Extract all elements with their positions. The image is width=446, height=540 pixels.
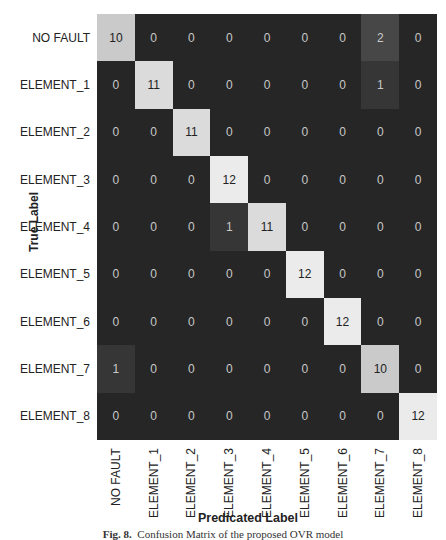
matrix-cell: 11 xyxy=(135,61,173,108)
matrix-cell: 0 xyxy=(135,156,173,203)
matrix-cell: 0 xyxy=(361,156,399,203)
y-axis-title: True Label xyxy=(27,192,41,252)
matrix-cell: 11 xyxy=(173,109,211,156)
matrix-cell: 0 xyxy=(173,345,211,392)
matrix-cell: 0 xyxy=(286,61,324,108)
matrix-cell: 0 xyxy=(97,251,135,298)
matrix-cell: 0 xyxy=(97,109,135,156)
matrix-cell: 0 xyxy=(399,14,437,61)
caption-text: Confusion Matrix of the proposed OVR mod… xyxy=(137,528,343,540)
matrix-cell: 0 xyxy=(399,298,437,345)
matrix-cell: 0 xyxy=(173,251,211,298)
x-tick-label: ELEMENT_6 xyxy=(336,448,350,518)
matrix-cell: 0 xyxy=(248,14,286,61)
matrix-cell: 0 xyxy=(286,109,324,156)
matrix-cell: 10 xyxy=(97,14,135,61)
x-tick-label: ELEMENT_1 xyxy=(147,448,161,518)
y-tick-label: ELEMENT_8 xyxy=(20,409,90,423)
matrix-cell: 0 xyxy=(135,298,173,345)
matrix-cell: 1 xyxy=(210,203,248,250)
matrix-cell: 0 xyxy=(97,156,135,203)
x-tick-label: ELEMENT_7 xyxy=(373,448,387,518)
y-tick-label: NO FAULT xyxy=(32,31,90,45)
matrix-cell: 0 xyxy=(361,109,399,156)
matrix-cell: 0 xyxy=(210,61,248,108)
matrix-cell: 12 xyxy=(210,156,248,203)
matrix-cell: 0 xyxy=(248,109,286,156)
matrix-cell: 11 xyxy=(248,203,286,250)
matrix-cell: 0 xyxy=(97,61,135,108)
matrix-cell: 0 xyxy=(324,345,362,392)
matrix-cell: 0 xyxy=(173,298,211,345)
x-tick-label: ELEMENT_5 xyxy=(298,448,312,518)
matrix-cell: 0 xyxy=(361,203,399,250)
matrix-cell: 0 xyxy=(135,345,173,392)
matrix-cell: 0 xyxy=(286,393,324,440)
figure-number: Fig. 8. xyxy=(103,528,132,540)
matrix-cell: 1 xyxy=(361,61,399,108)
matrix-cell: 0 xyxy=(286,156,324,203)
matrix-cell: 0 xyxy=(210,251,248,298)
matrix-cell: 0 xyxy=(248,345,286,392)
matrix-cell: 0 xyxy=(97,203,135,250)
matrix-cell: 12 xyxy=(286,251,324,298)
matrix-cell: 0 xyxy=(173,393,211,440)
y-tick-label: ELEMENT_3 xyxy=(20,173,90,187)
matrix-cell: 0 xyxy=(210,14,248,61)
matrix-cell: 0 xyxy=(248,61,286,108)
matrix-cell: 0 xyxy=(97,393,135,440)
matrix-cell: 0 xyxy=(248,156,286,203)
matrix-cell: 0 xyxy=(210,393,248,440)
x-tick-label: ELEMENT_4 xyxy=(260,448,274,518)
x-tick-label: ELEMENT_8 xyxy=(411,448,425,518)
matrix-cell: 0 xyxy=(286,14,324,61)
matrix-grid: 1000000020011000001000110000000001200000… xyxy=(97,14,437,440)
y-tick-label: ELEMENT_1 xyxy=(20,78,90,92)
matrix-cell: 0 xyxy=(210,298,248,345)
matrix-cell: 0 xyxy=(361,393,399,440)
matrix-cell: 0 xyxy=(361,251,399,298)
matrix-cell: 0 xyxy=(399,61,437,108)
matrix-cell: 0 xyxy=(324,156,362,203)
matrix-cell: 0 xyxy=(248,251,286,298)
x-tick-label: ELEMENT_3 xyxy=(222,448,236,518)
matrix-cell: 0 xyxy=(173,14,211,61)
matrix-cell: 0 xyxy=(399,251,437,298)
matrix-cell: 12 xyxy=(399,393,437,440)
matrix-cell: 0 xyxy=(324,203,362,250)
x-axis-title: Predicated Label xyxy=(0,511,446,525)
y-tick-label: ELEMENT_2 xyxy=(20,125,90,139)
matrix-cell: 0 xyxy=(173,203,211,250)
matrix-cell: 0 xyxy=(210,345,248,392)
y-tick-label: ELEMENT_7 xyxy=(20,362,90,376)
matrix-cell: 0 xyxy=(361,298,399,345)
matrix-cell: 0 xyxy=(173,156,211,203)
matrix-cell: 0 xyxy=(135,393,173,440)
matrix-cell: 0 xyxy=(286,203,324,250)
matrix-cell: 0 xyxy=(248,298,286,345)
matrix-cell: 0 xyxy=(399,203,437,250)
matrix-cell: 0 xyxy=(210,109,248,156)
matrix-cell: 0 xyxy=(173,61,211,108)
matrix-cell: 0 xyxy=(248,393,286,440)
matrix-cell: 0 xyxy=(399,345,437,392)
matrix-cell: 0 xyxy=(324,14,362,61)
matrix-cell: 12 xyxy=(324,298,362,345)
matrix-cell: 0 xyxy=(324,109,362,156)
matrix-cell: 0 xyxy=(135,251,173,298)
matrix-cell: 0 xyxy=(399,109,437,156)
matrix-cell: 0 xyxy=(286,298,324,345)
matrix-cell: 0 xyxy=(286,345,324,392)
figure-caption: Fig. 8. Confusion Matrix of the proposed… xyxy=(0,528,446,540)
matrix-cell: 0 xyxy=(135,109,173,156)
matrix-cell: 10 xyxy=(361,345,399,392)
x-tick-label: NO FAULT xyxy=(109,448,123,506)
matrix-cell: 2 xyxy=(361,14,399,61)
matrix-cell: 0 xyxy=(324,251,362,298)
matrix-cell: 0 xyxy=(399,156,437,203)
matrix-cell: 1 xyxy=(97,345,135,392)
x-tick-label: ELEMENT_2 xyxy=(184,448,198,518)
y-tick-label: ELEMENT_6 xyxy=(20,315,90,329)
y-tick-label: ELEMENT_5 xyxy=(20,267,90,281)
matrix-cell: 0 xyxy=(324,393,362,440)
